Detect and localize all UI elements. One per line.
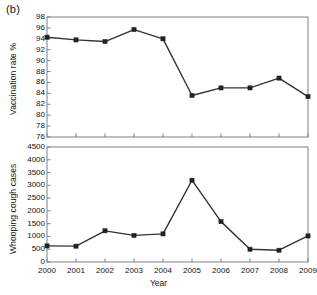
y-tick-label-bottom-9: 4500	[19, 143, 45, 151]
x-tick-label-9: 2009	[294, 267, 317, 275]
series-layer	[45, 27, 310, 252]
data-point-bottom-2003	[132, 233, 136, 237]
y-tick-label-bottom-4: 2000	[19, 207, 45, 215]
y-tick-label-top-9: 94	[19, 35, 45, 43]
x-tick-label-4: 2004	[149, 267, 177, 275]
data-point-bottom-2000	[45, 244, 49, 248]
y-tick-label-bottom-8: 4000	[19, 156, 45, 164]
y-tick-label-bottom-2: 1000	[19, 232, 45, 240]
x-tick-label-8: 2008	[265, 267, 293, 275]
data-point-top-2001	[74, 38, 78, 42]
y-tick-label-bottom-3: 1500	[19, 220, 45, 228]
plot-frame-top	[47, 17, 308, 137]
data-point-top-2006	[219, 86, 223, 90]
y-tick-label-top-10: 96	[19, 24, 45, 32]
data-point-top-2008	[277, 76, 281, 80]
data-point-bottom-2009	[306, 234, 310, 238]
x-tick-label-1: 2001	[62, 267, 90, 275]
y-tick-label-top-6: 88	[19, 68, 45, 76]
y-tick-label-bottom-6: 3000	[19, 181, 45, 189]
data-point-top-2002	[103, 39, 107, 43]
y-tick-label-top-3: 82	[19, 100, 45, 108]
y-tick-label-top-0: 76	[19, 133, 45, 141]
data-point-top-2003	[132, 27, 136, 31]
data-point-bottom-2006	[219, 220, 223, 224]
data-point-bottom-2001	[74, 244, 78, 248]
data-point-bottom-2002	[103, 229, 107, 233]
y-tick-label-bottom-1: 500	[19, 245, 45, 253]
figure-panel-b: (b) Vaccination rate % Whooping cough ca…	[0, 0, 317, 295]
plot-frame-bottom	[47, 147, 308, 262]
x-tick-label-3: 2003	[120, 267, 148, 275]
x-tick-label-0: 2000	[33, 267, 61, 275]
y-tick-label-top-1: 78	[19, 122, 45, 130]
y-tick-label-top-7: 90	[19, 57, 45, 65]
data-point-top-2009	[306, 95, 310, 99]
data-point-bottom-2008	[277, 248, 281, 252]
data-point-top-2007	[248, 86, 252, 90]
x-tick-label-5: 2005	[178, 267, 206, 275]
data-point-top-2005	[190, 93, 194, 97]
series-line-bottom	[47, 180, 308, 250]
chart-canvas	[0, 0, 317, 295]
y-tick-label-top-2: 80	[19, 111, 45, 119]
y-tick-label-bottom-7: 3500	[19, 169, 45, 177]
data-point-top-2000	[45, 35, 49, 39]
x-tick-label-2: 2002	[91, 267, 119, 275]
series-line-top	[47, 30, 308, 97]
y-tick-label-top-4: 84	[19, 89, 45, 97]
y-tick-label-top-8: 92	[19, 46, 45, 54]
y-tick-label-bottom-0: 0	[19, 258, 45, 266]
y-tick-label-bottom-5: 2500	[19, 194, 45, 202]
data-point-top-2004	[161, 37, 165, 41]
axes-layer	[47, 17, 308, 262]
data-point-bottom-2007	[248, 247, 252, 251]
data-point-bottom-2004	[161, 232, 165, 236]
y-tick-label-top-5: 86	[19, 78, 45, 86]
x-tick-label-6: 2006	[207, 267, 235, 275]
data-point-bottom-2005	[190, 178, 194, 182]
x-tick-label-7: 2007	[236, 267, 264, 275]
y-tick-label-top-11: 98	[19, 13, 45, 21]
